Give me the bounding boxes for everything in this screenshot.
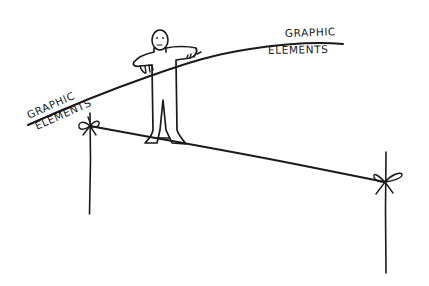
- tightrope: [90, 126, 385, 182]
- right-bow-knot-icon: [374, 173, 402, 194]
- right-label-bottom: ELEMENTS: [268, 43, 329, 56]
- right-eye: [162, 37, 164, 39]
- right-label-top: GRAPHIC: [285, 25, 336, 39]
- body-outline: [133, 47, 196, 145]
- right-post: [386, 152, 387, 273]
- left-eye: [156, 37, 158, 39]
- left-post: [90, 113, 91, 214]
- left-bow-knot-icon: [79, 117, 99, 135]
- head: [152, 30, 168, 50]
- tightrope-walker-figure: [133, 30, 201, 144]
- tightrope-illustration: GRAPHIC ELEMENTS GRAPHIC ELEMENTS: [0, 0, 429, 286]
